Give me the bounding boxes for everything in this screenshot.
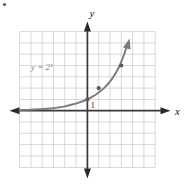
x-axis-label: x <box>174 105 180 117</box>
equation-label: y = 2 x <box>30 62 54 73</box>
x-axis-right-arrowhead <box>161 107 171 114</box>
point-1-2 <box>97 86 101 90</box>
point-0-1 <box>85 97 89 101</box>
graph-canvas: 1 y x y = 2 x <box>0 0 188 192</box>
point-2-4 <box>119 63 123 67</box>
y-axis-label: y <box>89 7 95 19</box>
x-axis-left-arrowhead <box>10 107 20 114</box>
y-axis-top-arrowhead <box>84 22 91 32</box>
equation-label-base: y = 2 <box>30 62 51 72</box>
curve-arrowhead <box>123 39 131 50</box>
y-axis-bottom-arrowhead <box>84 169 91 179</box>
y-intercept-tick-label: 1 <box>91 100 96 110</box>
equation-label-exponent: x <box>50 62 54 68</box>
exponential-function-graph-figure: 1 y x y = 2 x <box>0 0 188 192</box>
corner-mark <box>3 3 6 6</box>
